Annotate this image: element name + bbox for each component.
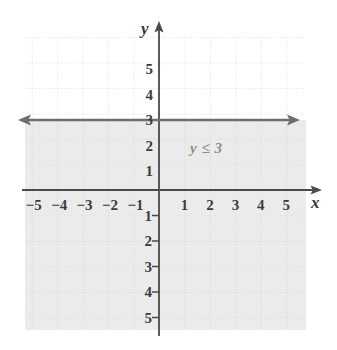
x-tick-label-neg-1: −1: [127, 198, 143, 213]
y-tick-label-neg-2: 2: [145, 234, 153, 249]
coordinate-plane-figure: y x 5 4 3 2 1 1 2 3 4 5 −5 −4 −3 −2 −1 1…: [0, 0, 337, 350]
y-tick-label-neg-5: 5: [145, 310, 153, 325]
graph-canvas: [0, 0, 337, 350]
y-tick-label-3: 3: [146, 113, 154, 128]
y-tick-label-5: 5: [146, 62, 154, 77]
y-tick-label-neg-1: 1: [145, 208, 153, 223]
x-tick-label-2: 2: [206, 198, 214, 213]
x-tick-label-neg-4: −4: [51, 198, 67, 213]
inequality-annotation-label: y ≤ 3: [190, 141, 222, 156]
y-tick-label-4: 4: [146, 87, 154, 102]
y-tick-label-neg-4: 4: [145, 285, 153, 300]
x-tick-label-5: 5: [283, 198, 291, 213]
y-axis-label: y: [141, 20, 149, 37]
x-tick-label-neg-3: −3: [77, 198, 93, 213]
grid-lines: [25, 37, 306, 330]
y-tick-label-2: 2: [146, 138, 154, 153]
y-tick-label-1: 1: [146, 164, 154, 179]
y-tick-label-neg-3: 3: [145, 259, 153, 274]
x-tick-label-1: 1: [181, 198, 189, 213]
x-axis-label: x: [311, 194, 320, 211]
x-tick-label-3: 3: [232, 198, 240, 213]
x-tick-label-4: 4: [257, 198, 265, 213]
x-tick-label-neg-2: −2: [102, 198, 118, 213]
x-tick-label-neg-5: −5: [26, 198, 42, 213]
